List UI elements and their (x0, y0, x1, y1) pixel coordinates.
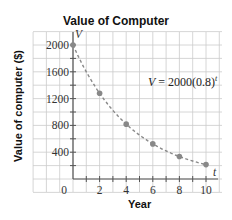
grid-lines (33, 32, 222, 193)
equation-label: V = 2000(0.8)t (148, 74, 218, 89)
svg-text:V: V (75, 28, 84, 40)
svg-text:1200: 1200 (46, 93, 69, 105)
svg-text:400: 400 (52, 146, 70, 158)
svg-text:t: t (213, 166, 217, 178)
svg-text:0: 0 (61, 184, 67, 196)
svg-text:8: 8 (177, 184, 183, 196)
svg-text:6: 6 (150, 184, 156, 196)
svg-text:800: 800 (52, 119, 70, 131)
plot-area: 2468104008001200160020000tV V = 2000(0.8… (0, 0, 232, 220)
svg-text:1600: 1600 (46, 66, 69, 78)
svg-text:2000: 2000 (46, 39, 69, 51)
axes (70, 32, 218, 182)
svg-text:2: 2 (97, 184, 103, 196)
svg-text:10: 10 (200, 184, 212, 196)
svg-text:4: 4 (123, 184, 129, 196)
